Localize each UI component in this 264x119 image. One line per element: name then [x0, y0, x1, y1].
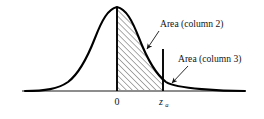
- annotation-area-column-3: Area (column 3): [178, 53, 241, 65]
- shaded-area-column-2: [117, 0, 163, 91]
- axis-tick-label-z: z: [158, 96, 163, 107]
- axis-tick-label-z-subscript: a: [165, 101, 169, 108]
- leader-line-area-column-3: [172, 66, 188, 83]
- figure-canvas: Area (column 2) Area (column 3) 0 z a: [0, 0, 264, 119]
- axis-tick-label-zero: 0: [115, 96, 120, 107]
- annotation-area-column-2: Area (column 2): [160, 18, 223, 30]
- leader-line-area-column-2: [147, 31, 159, 49]
- normal-curve-figure: Area (column 2) Area (column 3) 0 z a: [0, 0, 264, 119]
- axis-tick-label-z-alpha: z a: [158, 96, 169, 108]
